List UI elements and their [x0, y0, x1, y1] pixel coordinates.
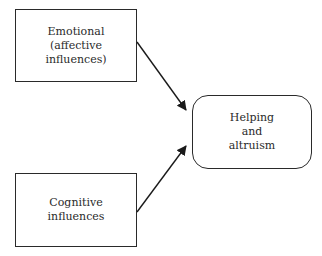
node-label-line: influences)	[45, 53, 106, 67]
node-label-line: Helping	[230, 111, 274, 125]
arrow-emotional-to-helping	[137, 42, 186, 110]
node-label-line: and	[242, 125, 263, 139]
arrow-cognitive-to-helping	[137, 146, 186, 212]
node-label-line: Cognitive	[49, 196, 102, 210]
node-emotional-influences: Emotional (affective influences)	[15, 9, 137, 82]
node-label-line: altruism	[229, 139, 275, 153]
node-label-line: (affective	[50, 39, 102, 53]
node-label-line: Emotional	[48, 25, 105, 39]
node-helping-and-altruism: Helping and altruism	[192, 95, 312, 169]
node-cognitive-influences: Cognitive influences	[15, 173, 137, 247]
node-label-line: influences	[48, 210, 105, 224]
